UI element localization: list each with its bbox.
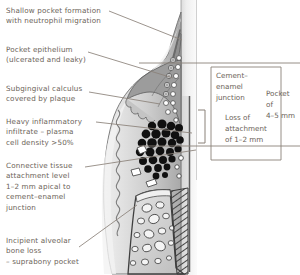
label-pocket-epithelium: Pocket epithelium (ulcerated and leaky): [6, 45, 106, 66]
label-alveolar-bone-loss: Incipient alveolar bone loss – suprabony…: [6, 236, 111, 267]
label-pocket-depth: Pocket of 4–5 mm: [266, 88, 300, 122]
label-shallow-pocket: Shallow pocket formation with neutrophil…: [6, 6, 116, 27]
leader-shallow-pocket: [109, 11, 182, 40]
label-inflammatory-infiltrate: Heavy inflammatory infiltrate – plasma c…: [6, 117, 106, 148]
attachment-loss-bracket: [198, 110, 205, 143]
label-connective-tissue-attachment: Connective tissue attachment level 1–2 m…: [6, 161, 104, 213]
label-cement-enamel-junction: Cement– enamel junction: [216, 70, 266, 104]
label-subgingival-calculus: Subgingival calculus covered by plaque: [6, 84, 106, 105]
periodontal-diagram: Shallow pocket formation with neutrophil…: [0, 0, 300, 275]
